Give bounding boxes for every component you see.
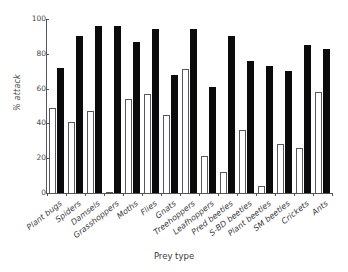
x-category-label: Pred beetles [134, 199, 234, 272]
bar-group [256, 19, 275, 193]
bar-filled [76, 36, 83, 193]
bar-filled [152, 29, 159, 193]
y-tick-label: 60 [22, 85, 46, 93]
bar-group [294, 19, 313, 193]
bar-open [125, 99, 132, 193]
bar-group [104, 19, 123, 193]
x-tick-mark [123, 193, 124, 196]
y-tick-label: 40 [22, 119, 46, 127]
y-tick-label: 100 [22, 15, 46, 23]
bar-filled [304, 45, 311, 193]
x-tick-mark [66, 193, 67, 196]
bar-open [277, 144, 284, 193]
bar-filled [209, 87, 216, 193]
bar-filled [114, 26, 121, 193]
bar-filled [247, 61, 254, 193]
x-tick-mark [332, 193, 333, 196]
bar-group [237, 19, 256, 193]
x-tick-mark [199, 193, 200, 196]
y-axis-title: % attack [13, 53, 22, 133]
bar-group [47, 19, 66, 193]
x-tick-mark [294, 193, 295, 196]
x-tick-mark [180, 193, 181, 196]
x-category-label: S-BD beetles [153, 199, 253, 272]
bar-open [258, 186, 265, 193]
bar-filled [171, 75, 178, 193]
plot-area [47, 19, 332, 193]
bar-group [85, 19, 104, 193]
x-category-label: Moths [39, 199, 139, 272]
x-tick-mark [237, 193, 238, 196]
bar-filled [323, 49, 330, 193]
bar-filled [133, 42, 140, 193]
x-category-label: Gnats [77, 199, 177, 272]
bar-group [161, 19, 180, 193]
x-category-label: Plant beetles [172, 199, 272, 272]
y-tick-label: 20 [22, 154, 46, 162]
x-axis-title: Prey type [0, 251, 348, 261]
bar-open [49, 108, 56, 193]
bar-filled [57, 68, 64, 193]
bar-group [199, 19, 218, 193]
bar-group [66, 19, 85, 193]
bar-open [296, 148, 303, 193]
x-tick-mark [218, 193, 219, 196]
bar-group [180, 19, 199, 193]
bar-filled [228, 36, 235, 193]
bar-open [201, 156, 208, 193]
bar-open [182, 69, 189, 193]
x-category-label: Plant bugs [0, 199, 63, 272]
x-category-label: Damsels [1, 199, 101, 272]
x-tick-mark [104, 193, 105, 196]
bar-open [220, 172, 227, 193]
bar-group [142, 19, 161, 193]
x-axis-tick-marks [47, 193, 332, 197]
x-tick-mark [275, 193, 276, 196]
x-tick-mark [256, 193, 257, 196]
x-tick-mark [313, 193, 314, 196]
x-category-label: Spiders [0, 199, 82, 272]
bar-filled [285, 71, 292, 193]
x-category-label: Crickets [210, 199, 310, 272]
y-axis-tick-labels: 020406080100 [22, 14, 46, 196]
x-category-label: Treehoppers [96, 199, 196, 272]
bar-filled [190, 29, 197, 193]
bar-group [218, 19, 237, 193]
x-tick-mark [85, 193, 86, 196]
bar-open [163, 115, 170, 193]
x-category-label: Leafhoppers [115, 199, 215, 272]
bar-open [68, 122, 75, 193]
bar-group [123, 19, 142, 193]
x-category-label: Ants [229, 199, 329, 272]
x-category-label: SM beetles [191, 199, 291, 272]
y-tick-label: 0 [22, 189, 46, 197]
y-tick-label: 80 [22, 50, 46, 58]
bar-open [144, 94, 151, 193]
x-category-label: Grasshoppers [20, 199, 120, 272]
bar-open [315, 92, 322, 193]
bar-group [275, 19, 294, 193]
x-category-label: Flies [58, 199, 158, 272]
bar-filled [266, 66, 273, 193]
bar-open [239, 130, 246, 193]
x-tick-mark [142, 193, 143, 196]
x-tick-mark [161, 193, 162, 196]
bar-open [87, 111, 94, 193]
bar-filled [95, 26, 102, 193]
bar-group [313, 19, 332, 193]
x-tick-mark [47, 193, 48, 196]
bar-chart-figure: % attack 020406080100 Plant bugsSpidersD… [0, 0, 348, 272]
